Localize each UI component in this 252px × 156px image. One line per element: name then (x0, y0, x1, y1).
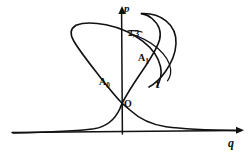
curve-a0-path (71, 23, 240, 131)
q-axis-label: q (228, 137, 234, 149)
curve-a0-label-subscript: 0 (106, 82, 110, 90)
origin-label: O (124, 99, 132, 109)
curve-a1-label: A1 (138, 53, 149, 66)
point-1-label: 1 (155, 80, 160, 90)
curve-a0-label: A0 (99, 77, 110, 90)
point-2-3-label: 2,3 (128, 29, 139, 38)
curve-a1-label-subscript: 1 (145, 58, 149, 66)
p-axis-line (122, 13, 123, 134)
p-axis (118, 6, 125, 134)
p-axis-label: p (124, 3, 130, 14)
curve-a1-path-outer (142, 14, 177, 87)
curve-a0 (71, 23, 240, 131)
plot-svg (0, 0, 252, 156)
figure-canvas: p q O 1 2,3 A0 A1 (0, 0, 252, 156)
curve-a1 (13, 14, 176, 133)
